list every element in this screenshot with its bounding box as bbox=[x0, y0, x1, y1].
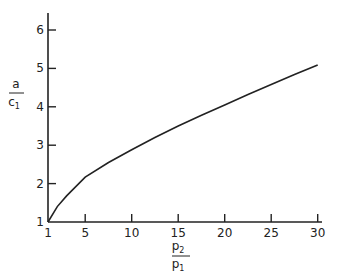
x-tick-label: 15 bbox=[171, 226, 186, 240]
y-tick-label: 4 bbox=[36, 100, 44, 114]
x-tick-label: 1 bbox=[44, 226, 52, 240]
x-ticks: 151015202530 bbox=[44, 214, 325, 240]
data-curve bbox=[48, 65, 318, 222]
y-label-denominator: c1 bbox=[8, 95, 20, 111]
y-tick-label: 3 bbox=[36, 138, 44, 152]
x-tick-label: 10 bbox=[124, 226, 139, 240]
x-tick-label: 5 bbox=[81, 226, 89, 240]
y-tick-label: 2 bbox=[36, 177, 44, 191]
y-tick-label: 1 bbox=[36, 215, 44, 229]
x-label-numerator: p2 bbox=[172, 239, 185, 255]
x-axis-label: p2 p1 bbox=[172, 239, 190, 273]
y-tick-label: 5 bbox=[36, 61, 44, 75]
axes bbox=[48, 13, 322, 222]
x-tick-label: 30 bbox=[310, 226, 325, 240]
x-tick-label: 20 bbox=[217, 226, 232, 240]
x-tick-label: 25 bbox=[264, 226, 279, 240]
chart: 123456 151015202530 a c1 p2 p1 bbox=[0, 0, 338, 277]
y-axis-label: a c1 bbox=[8, 77, 24, 111]
y-label-numerator: a bbox=[12, 77, 19, 91]
y-tick-label: 6 bbox=[36, 23, 44, 37]
x-label-denominator: p1 bbox=[172, 257, 185, 273]
y-ticks: 123456 bbox=[36, 23, 56, 229]
